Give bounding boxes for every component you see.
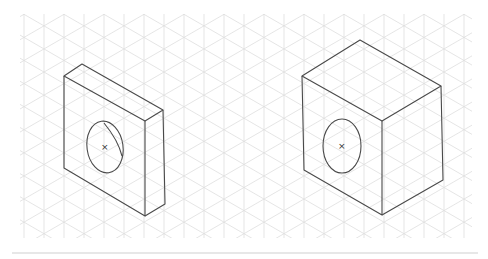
- center-mark: ×: [101, 142, 109, 152]
- cube-block: ×: [302, 40, 443, 215]
- isometric-grid: [0, 0, 488, 259]
- isometric-drawing: × ×: [0, 0, 488, 259]
- center-mark: ×: [338, 141, 346, 151]
